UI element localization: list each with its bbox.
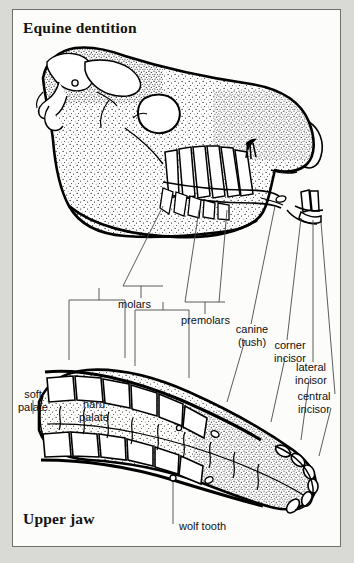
label-soft-palate-line2: palate [15, 401, 51, 413]
skull-lateral-view [33, 40, 333, 250]
figure-panel: Equine dentition Upper jaw molars premol… [12, 9, 341, 547]
label-central-incisor-line2: incisor [290, 403, 338, 415]
canine-tush-skull [275, 195, 286, 203]
label-corner-incisor-line1: corner [266, 339, 314, 351]
temporal-foramen [72, 80, 78, 86]
label-lateral-incisor-line1: lateral [288, 361, 334, 373]
label-hard-palate-line2: palate [73, 411, 115, 423]
page-title: Equine dentition [23, 19, 137, 37]
equine-dentition-plate [13, 10, 340, 546]
label-central-incisor-line1: central [290, 390, 338, 402]
label-lateral-incisor-line2: incisor [288, 374, 334, 386]
label-hard-palate-line1: hard [73, 398, 115, 410]
incisor-arcade-skull [299, 190, 321, 223]
label-canine-line1: canine [226, 323, 278, 335]
label-premolars: premolars [181, 314, 230, 326]
orbit-eye-socket [138, 95, 180, 134]
label-wolf-tooth: wolf tooth [179, 520, 226, 532]
wolf-tooth-jaw [170, 475, 176, 481]
label-soft-palate-line1: soft [15, 388, 51, 400]
label-molars: molars [118, 298, 151, 310]
section-title-upper-jaw: Upper jaw [23, 510, 95, 528]
